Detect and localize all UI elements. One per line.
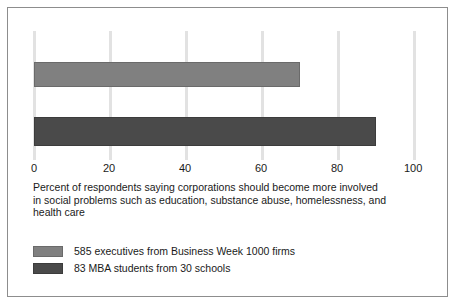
legend-item-mba-students: 83 MBA students from 30 schools	[33, 260, 295, 276]
chart-caption: Percent of respondents saying corporatio…	[33, 181, 433, 219]
legend-item-executives: 585 executives from Business Week 1000 f…	[33, 243, 295, 259]
caption-line-3: health care	[33, 206, 433, 219]
chart-legend: 585 executives from Business Week 1000 f…	[33, 243, 295, 277]
xtick-label-80: 80	[331, 162, 343, 175]
gridline-100	[413, 31, 416, 160]
xtick-label-40: 40	[179, 162, 191, 175]
xtick-label-0: 0	[31, 162, 37, 175]
xtick-label-60: 60	[255, 162, 267, 175]
legend-swatch-mba-students	[33, 263, 63, 274]
chart-figure: 0 20 40 60 80 100 Percent of respondents…	[0, 0, 456, 306]
xtick-label-100: 100	[404, 162, 422, 175]
caption-line-1: Percent of respondents saying corporatio…	[33, 181, 433, 194]
bar-mba-students	[34, 117, 376, 146]
legend-swatch-executives	[33, 246, 63, 257]
xtick-label-20: 20	[103, 162, 115, 175]
caption-line-2: in social problems such as education, su…	[33, 194, 433, 207]
legend-label-mba-students: 83 MBA students from 30 schools	[74, 262, 230, 274]
bar-executives	[34, 62, 300, 87]
legend-label-executives: 585 executives from Business Week 1000 f…	[74, 245, 295, 257]
